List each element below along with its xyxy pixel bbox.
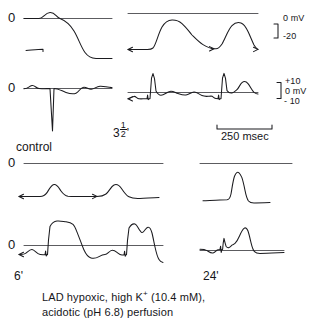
zero-label-top-left: 0 [8,11,15,24]
zero-label-lower-left-upper: 0 [8,156,15,169]
caption-line-1-post: (10.4 mM), [148,291,205,303]
zero-label-lower-left-lower: 0 [8,238,15,251]
time-scale-bracket [217,125,272,129]
scale-label-0mv-upper: 0 mV [283,14,304,23]
voltage-bracket-upper [274,24,278,38]
electrophysiology-figure: 0 0 0 0 0 mV -20 +10 0 mV - 10 250 msec … [0,0,324,326]
panel-label-control: control [16,141,52,153]
scale-label-0mv-lower: 0 mV [285,87,306,96]
panel-label-3half: 312' [113,121,129,139]
time-scale-label: 250 msec [221,131,269,142]
caption-line-2: acidotic (pH 6.8) perfusion [42,305,205,320]
panel-label-3half-prime: ' [127,126,129,140]
fraction-denominator: 2 [120,130,127,139]
scale-label-minus10: - 10 [284,97,300,106]
caption-line-1: LAD hypoxic, high K+ (10.4 mM), [42,290,205,305]
figure-caption: LAD hypoxic, high K+ (10.4 mM), acidotic… [42,290,205,320]
voltage-bracket-lower [277,83,281,99]
voltage-scale-brackets [0,0,324,326]
scale-label-plus10: +10 [285,77,301,86]
panel-label-3half-whole: 3 [113,126,120,140]
zero-label-mid-left: 0 [8,81,15,94]
scale-label-minus20: -20 [283,32,296,41]
panel-label-24min: 24' [203,270,219,282]
caption-line-1-pre: LAD hypoxic, high K [42,291,143,303]
panel-label-3half-fraction: 12 [120,121,127,139]
panel-label-6min: 6' [14,270,23,282]
